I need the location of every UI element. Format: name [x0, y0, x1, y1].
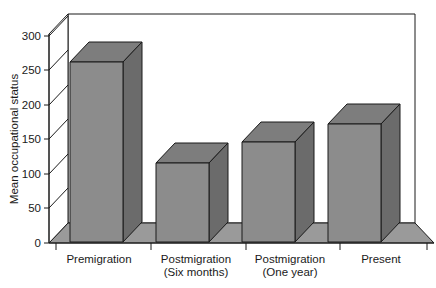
- x-category-label-present: Present: [361, 253, 401, 265]
- y-tick-label: 150: [22, 133, 41, 145]
- bar-front-face: [70, 62, 123, 242]
- bar-side-face: [123, 42, 142, 242]
- chart-container: 0 50 100 150 200 250 300: [0, 0, 436, 288]
- bar-present[interactable]: [328, 104, 400, 242]
- y-tick-label: 0: [35, 237, 41, 249]
- bar-front-face: [156, 163, 209, 242]
- bar-postmigration-six-months[interactable]: [156, 143, 228, 242]
- bar-front-face: [328, 124, 381, 242]
- y-tick-label: 250: [22, 64, 41, 76]
- bar-front-face: [242, 142, 295, 242]
- x-category-sublabel-six-months: (Six months): [164, 266, 229, 278]
- x-category-label-premigration: Premigration: [66, 253, 131, 265]
- bar-side-face: [381, 104, 400, 242]
- x-category-label-postmigration-six-months: Postmigration: [161, 253, 231, 265]
- x-category-label-postmigration-one-year: Postmigration: [255, 253, 325, 265]
- y-tick-label: 200: [22, 99, 41, 111]
- bar-side-face: [295, 122, 314, 242]
- bar-chart-3d: 0 50 100 150 200 250 300: [0, 0, 436, 288]
- bar-premigration[interactable]: [70, 42, 142, 242]
- y-axis-title: Mean occupational status: [8, 74, 20, 205]
- bar-postmigration-one-year[interactable]: [242, 122, 314, 242]
- y-tick-label: 100: [22, 168, 41, 180]
- y-tick-label: 300: [22, 30, 41, 42]
- y-tick-label: 50: [28, 202, 41, 214]
- x-category-sublabel-one-year: (One year): [263, 266, 318, 278]
